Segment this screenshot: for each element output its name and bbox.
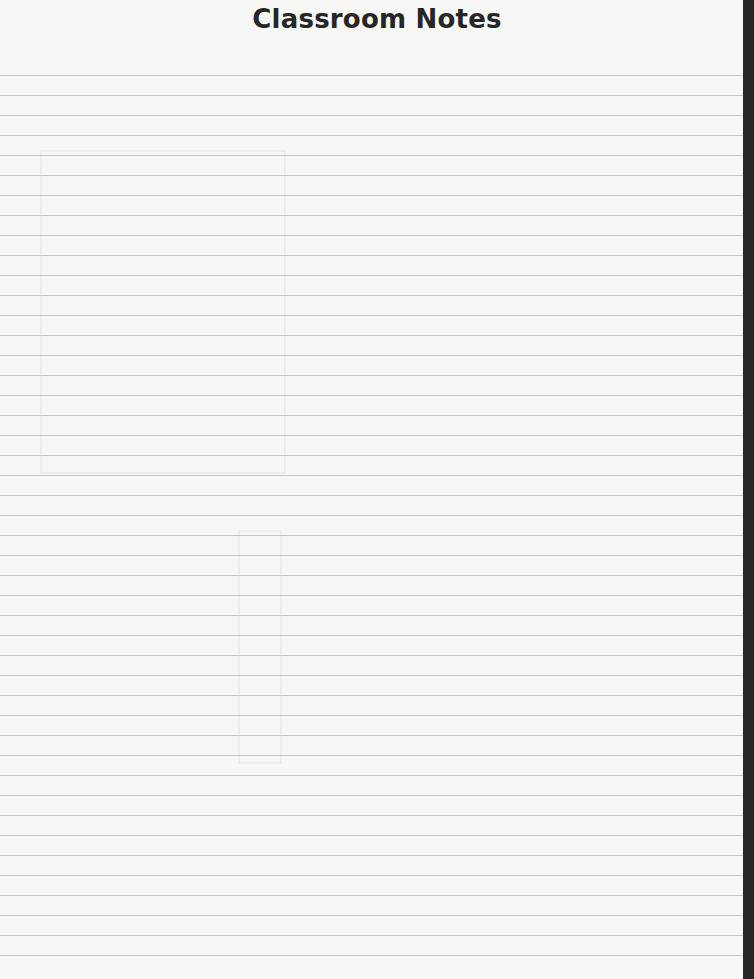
ruled-line	[0, 195, 743, 196]
ruled-line	[0, 135, 743, 136]
ruled-line	[0, 595, 743, 596]
ruled-line	[0, 455, 743, 456]
ruled-line	[0, 375, 743, 376]
ruled-line	[0, 495, 743, 496]
ruled-line	[0, 555, 743, 556]
ruled-line	[0, 515, 743, 516]
ruled-line	[0, 755, 743, 756]
ruled-line	[0, 75, 743, 76]
ruled-line	[0, 235, 743, 236]
ruled-line	[0, 575, 743, 576]
ruled-line	[0, 915, 743, 916]
ruled-line	[0, 355, 743, 356]
ruled-line	[0, 895, 743, 896]
ruled-line	[0, 695, 743, 696]
ruled-line	[0, 875, 743, 876]
ruled-line	[0, 535, 743, 536]
page-edge-binding	[743, 0, 754, 979]
ruled-line	[0, 775, 743, 776]
ruled-line	[0, 215, 743, 216]
ruled-line	[0, 855, 743, 856]
ruled-line	[0, 415, 743, 416]
ruled-line	[0, 955, 743, 956]
ruled-line	[0, 335, 743, 336]
page-title: Classroom Notes	[0, 4, 743, 34]
ruled-line	[0, 95, 743, 96]
ruled-line	[0, 795, 743, 796]
ruled-line	[0, 275, 743, 276]
ruled-line	[0, 295, 743, 296]
ruled-line	[0, 435, 743, 436]
ruled-line	[0, 675, 743, 676]
ruled-line	[0, 175, 743, 176]
ruled-line	[0, 395, 743, 396]
ruled-line	[0, 155, 743, 156]
ruled-line	[0, 935, 743, 936]
ruled-line	[0, 815, 743, 816]
notebook-page: Classroom Notes	[0, 0, 743, 979]
ruled-line	[0, 655, 743, 656]
ruled-line	[0, 735, 743, 736]
ruled-line	[0, 715, 743, 716]
ruled-line	[0, 835, 743, 836]
ruled-line	[0, 635, 743, 636]
ruled-line	[0, 315, 743, 316]
ruled-line	[0, 115, 743, 116]
ruled-line	[0, 255, 743, 256]
ruled-line	[0, 475, 743, 476]
ruled-lines	[0, 0, 743, 979]
ruled-line	[0, 615, 743, 616]
